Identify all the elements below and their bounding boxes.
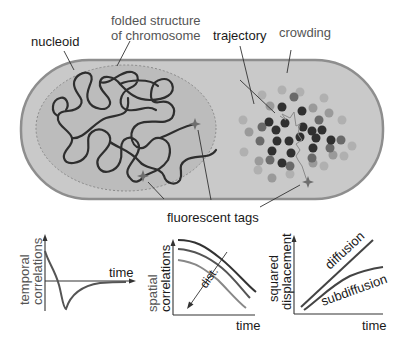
displacement-xlabel: time (362, 318, 387, 333)
label-folded-structure-line2: of chromosome (111, 28, 201, 43)
panel-temporal-correlations: temporal correlations time (17, 234, 136, 311)
temporal-xlabel: time (109, 265, 134, 280)
label-nucleoid: nucleoid (31, 34, 79, 49)
spatial-ylabel-line2: correlations (158, 244, 173, 312)
temporal-ylabel-line2: correlations (30, 237, 45, 305)
label-crowding: crowding (279, 25, 331, 40)
diagram-canvas: nucleoid folded structure of chromosome … (0, 0, 402, 339)
spatial-distance-label: dist. (197, 265, 221, 291)
displacement-ylabel-line2: displacement (279, 233, 294, 310)
panel-spatial-correlations: dist. spatial correlations time (145, 239, 261, 333)
spatial-xlabel: time (236, 318, 261, 333)
displacement-curve-subdiffusion: subdiffusion (319, 271, 389, 309)
label-folded-structure-line1: folded structure (111, 13, 201, 28)
label-fluorescent-tags: fluorescent tags (167, 210, 259, 225)
panel-squared-displacement: diffusion subdiffusion squared displacem… (266, 228, 389, 333)
chromosome-dynamics-diagram: nucleoid folded structure of chromosome … (0, 0, 402, 339)
label-trajectory: trajectory (213, 28, 267, 43)
